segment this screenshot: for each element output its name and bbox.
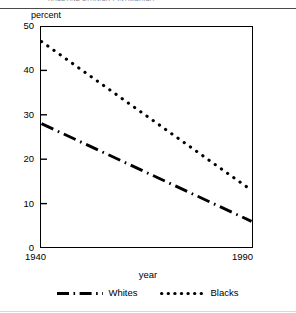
series-line-blacks (42, 42, 252, 191)
y-tick-label-50: 50 (0, 21, 34, 31)
legend-label-blacks: Blacks (211, 288, 239, 298)
legend-entry-blacks: Blacks (160, 288, 239, 298)
y-tick-label-40: 40 (0, 65, 34, 75)
x-tick-label-1940: 1940 (25, 252, 46, 262)
y-axis-label: percent (31, 10, 61, 20)
plot-series-canvas (40, 26, 253, 248)
header-divider (0, 8, 296, 9)
y-tick-label-20: 20 (0, 154, 34, 164)
cropped-header-text: RACE AND ETHNICITY IN AMERICA (48, 0, 154, 2)
x-tick-label-1990: 1990 (232, 252, 253, 262)
series-line-whites (42, 124, 252, 222)
legend-label-whites: Whites (108, 288, 137, 298)
footer-divider (0, 311, 296, 312)
y-tick-label-30: 30 (0, 110, 34, 120)
legend-swatch-dash-dot-icon (57, 289, 103, 298)
chart-legend: Whites Blacks (0, 288, 296, 298)
y-axis-tick-marks (40, 70, 47, 203)
x-axis-label: year (0, 269, 296, 280)
chart-figure: RACE AND ETHNICITY IN AMERICA percent 50… (0, 0, 296, 313)
legend-entry-whites: Whites (57, 288, 137, 298)
y-tick-label-10: 10 (0, 199, 34, 209)
legend-swatch-dotted-icon (160, 289, 206, 298)
